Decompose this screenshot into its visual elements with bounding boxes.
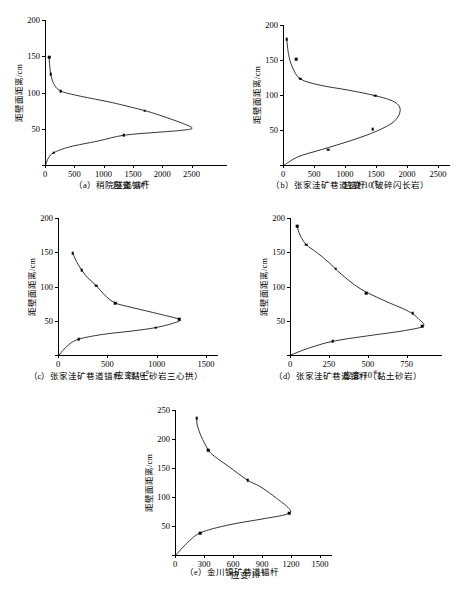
x-tick-label-e-0: 0 [173,560,177,569]
x-tick-a-2 [104,165,105,168]
y-tick-c-0 [55,355,58,356]
x-tick-c-0 [58,355,59,358]
y-tick-e-0 [172,555,175,556]
y-tick-c-1 [55,321,58,322]
y-tick-label-b-1: 50 [259,126,278,135]
y-tick-label-d-3: 150 [266,248,285,257]
x-tick-label-d-1: 250 [323,360,336,369]
y-tick-d-4 [287,218,290,219]
y-tick-label-c-3: 150 [34,248,53,257]
x-tick-label-b-2: 1000 [337,170,354,179]
y-tick-label-e-4: 200 [151,435,170,444]
y-tick-d-3 [287,252,290,253]
curve-a [0,0,462,604]
x-tick-label-c-1: 500 [101,360,114,369]
data-point-c-6 [77,338,80,341]
x-tick-b-4 [407,165,408,168]
y-axis-title-c: 距壁面距离/cm [28,258,37,316]
x-tick-a-1 [74,165,75,168]
x-tick-e-0 [175,555,176,558]
y-tick-d-1 [287,321,290,322]
data-point-b-0 [285,38,288,41]
x-tick-b-5 [438,165,439,168]
curve-d [0,0,462,604]
y-axis-title-a: 距壁面距离/cm [15,64,24,122]
x-tick-label-e-5: 1500 [312,560,329,569]
x-tick-label-a-3: 1500 [124,170,141,179]
x-axis-line-a [45,165,227,166]
y-tick-b-1 [280,130,283,131]
x-axis-line-c [58,355,218,356]
y-tick-label-c-1: 50 [34,317,53,326]
x-axis-line-b [283,165,450,166]
y-axis-line-d [290,218,291,356]
x-tick-c-1 [107,355,108,358]
data-point-c-4 [178,318,181,321]
y-tick-d-0 [287,355,290,356]
x-tick-label-b-1: 500 [308,170,321,179]
x-tick-e-1 [204,555,205,558]
x-tick-e-2 [233,555,234,558]
y-tick-label-b-3: 150 [259,56,278,65]
data-point-d-3 [365,292,368,295]
y-tick-label-e-2: 100 [151,493,170,502]
y-axis-title-d: 距壁面距离/cm [260,258,269,316]
x-tick-d-0 [290,355,291,358]
y-tick-label-d-2: 100 [266,282,285,291]
y-tick-label-e-3: 150 [151,464,170,473]
x-axis-line-d [290,355,442,356]
y-axis-line-c [58,218,59,356]
data-point-d-4 [412,312,415,315]
x-tick-label-b-5: 2500 [430,170,447,179]
data-point-d-0 [296,225,299,228]
x-tick-label-e-4: 1200 [283,560,300,569]
y-tick-b-0 [280,165,283,166]
x-tick-label-a-1: 500 [68,170,81,179]
x-tick-label-d-3: 750 [400,360,413,369]
x-tick-c-3 [206,355,207,358]
data-point-c-1 [80,269,83,272]
y-tick-a-1 [42,129,45,130]
y-tick-e-5 [172,410,175,411]
y-tick-label-b-4: 200 [259,21,278,30]
x-tick-a-5 [192,165,193,168]
y-tick-a-2 [42,93,45,94]
curve-e [0,0,462,604]
x-tick-a-0 [45,165,46,168]
y-tick-label-c-4: 200 [34,214,53,223]
chart-panel-a: 0500100015002000250050100150200应变/10-6距壁… [0,0,462,604]
y-tick-e-1 [172,526,175,527]
data-point-a-3 [143,109,146,112]
panel-caption-e: （e）金川镍矿巷道锚杆 [185,568,279,577]
x-tick-d-2 [368,355,369,358]
y-axis-title-b: 距壁面距离/cm [253,66,262,124]
x-tick-label-b-3: 1500 [368,170,385,179]
x-tick-label-b-0: 0 [281,170,285,179]
data-point-b-4 [372,128,375,131]
x-tick-label-a-4: 2000 [154,170,171,179]
y-tick-label-a-2: 100 [21,88,40,97]
y-tick-e-2 [172,497,175,498]
chart-panel-d: 025050075050100150200应变/10-6距壁面距离/cm [0,0,462,604]
x-tick-a-3 [133,165,134,168]
x-tick-label-c-3: 1500 [198,360,215,369]
y-tick-e-3 [172,468,175,469]
y-tick-d-2 [287,287,290,288]
x-axis-line-e [175,555,332,556]
data-point-e-3 [288,512,291,515]
y-tick-b-2 [280,95,283,96]
data-point-a-4 [122,134,125,137]
data-point-c-3 [114,302,117,305]
y-tick-e-4 [172,439,175,440]
y-tick-a-3 [42,56,45,57]
x-tick-b-0 [283,165,284,168]
data-point-d-6 [331,340,334,343]
data-point-e-4 [199,532,202,535]
curve-b [0,0,462,604]
y-tick-label-a-3: 150 [21,52,40,61]
data-point-d-1 [305,243,308,246]
x-tick-b-2 [345,165,346,168]
data-point-c-2 [95,285,98,288]
x-tick-d-3 [407,355,408,358]
y-tick-a-4 [42,20,45,21]
